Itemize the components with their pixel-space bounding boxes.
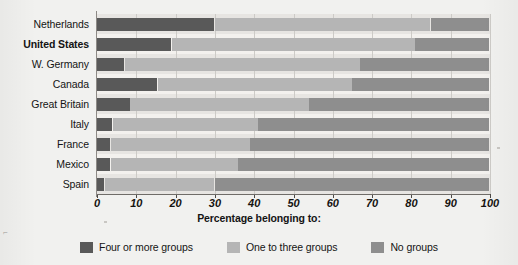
legend-label: No groups: [390, 241, 438, 253]
legend-item[interactable]: One to three groups: [227, 241, 338, 253]
bar-segment: [352, 78, 489, 91]
bar-spain: [97, 178, 490, 191]
bar-mexico: [97, 158, 490, 171]
legend-swatch: [371, 242, 384, 253]
bar-segment: [111, 158, 238, 171]
x-tick-label: 20: [169, 197, 181, 209]
category-label: France: [0, 139, 89, 150]
legend-label: Four or more groups: [99, 241, 193, 253]
bar-great-britain: [97, 98, 490, 111]
legend-item[interactable]: Four or more groups: [80, 241, 193, 253]
bar-segment: [113, 118, 258, 131]
category-label: W. Germany: [0, 59, 89, 70]
bar-segment: [125, 58, 360, 71]
bar-segment: [97, 158, 110, 171]
category-label: Spain: [0, 179, 89, 190]
x-tick-label: 50: [287, 197, 299, 209]
bar-segment: [309, 98, 489, 111]
bar-segment: [97, 138, 110, 151]
bar-italy: [97, 118, 490, 131]
legend-swatch: [227, 242, 240, 253]
bar-segment: [97, 98, 130, 111]
legend-label: One to three groups: [246, 241, 338, 253]
category-label: Mexico: [0, 159, 89, 170]
x-tick-label: 40: [248, 197, 260, 209]
scan-speck: [104, 221, 107, 223]
bar-segment: [97, 78, 157, 91]
legend-item[interactable]: No groups: [371, 241, 438, 253]
x-axis-line: [97, 194, 490, 195]
bar-segment: [172, 38, 415, 51]
bar-segment: [97, 178, 104, 191]
category-label: Great Britain: [0, 99, 89, 110]
bar-segment: [415, 38, 489, 51]
bar-segment: [97, 58, 124, 71]
x-tick-label: 0: [94, 197, 100, 209]
scan-edge-mark: ⌐: [3, 228, 8, 237]
bar-segment: [250, 138, 489, 151]
bar-w-germany: [97, 58, 490, 71]
stacked-bar-chart: NetherlandsUnited StatesW. GermanyCanada…: [0, 0, 518, 208]
chart-legend: Four or more groupsOne to three groupsNo…: [0, 238, 518, 256]
bar-canada: [97, 78, 490, 91]
bar-united-states: [97, 38, 490, 51]
category-label: Italy: [0, 119, 89, 130]
x-tick-label: 80: [405, 197, 417, 209]
bar-segment: [97, 38, 171, 51]
category-axis-labels: NetherlandsUnited StatesW. GermanyCanada…: [0, 14, 93, 194]
scan-speck: [497, 147, 500, 149]
gridline: [490, 14, 491, 194]
bar-netherlands: [97, 18, 490, 31]
x-axis-title: Percentage belonging to:: [0, 212, 518, 224]
bar-segment: [215, 18, 431, 31]
x-tick-label: 10: [130, 197, 142, 209]
bar-segment: [360, 58, 489, 71]
bar-segment: [238, 158, 489, 171]
x-tick-label: 30: [209, 197, 221, 209]
x-tick-label: 90: [445, 197, 457, 209]
x-axis-ticks: 0102030405060708090100: [0, 194, 518, 210]
chart-page: NetherlandsUnited StatesW. GermanyCanada…: [0, 0, 518, 265]
x-tick-label: 70: [366, 197, 378, 209]
category-label: Canada: [0, 79, 89, 90]
bar-france: [97, 138, 490, 151]
x-tick-label: 100: [481, 197, 499, 209]
bar-segment: [258, 118, 489, 131]
bar-segment: [111, 138, 250, 151]
x-tick-label: 60: [327, 197, 339, 209]
category-label: Netherlands: [0, 19, 89, 30]
bar-segment: [215, 178, 490, 191]
category-label: United States: [0, 39, 89, 50]
plot-area: [97, 14, 490, 194]
bar-segment: [105, 178, 214, 191]
bar-segment: [431, 18, 489, 31]
bar-segment: [130, 98, 308, 111]
bar-segment: [97, 18, 214, 31]
bar-segment: [97, 118, 112, 131]
legend-swatch: [80, 242, 93, 253]
bar-segment: [158, 78, 352, 91]
